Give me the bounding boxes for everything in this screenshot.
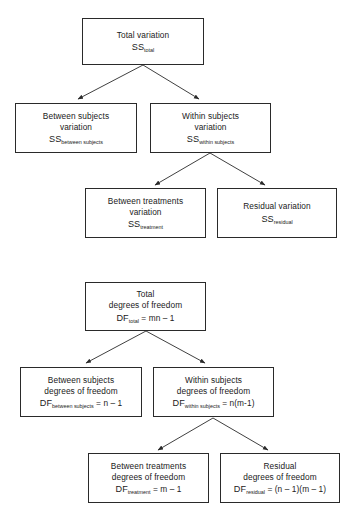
node-df-within-subjects-formula: DFwithin subjects = n(m-1) (173, 397, 255, 409)
node-ss-between-subjects-label-1: Between subjects (43, 111, 109, 122)
edge-df-total-to-between-subjects (86, 331, 146, 363)
node-df-total: Total degrees of freedom DFtotal = mn – … (85, 282, 206, 331)
node-ss-residual-formula: SSresidual (261, 213, 292, 225)
node-df-total-label-2: degrees of freedom (109, 300, 182, 311)
node-df-treatment-subscript: treatment (128, 489, 151, 495)
node-ss-between-subjects-label-2: variation (60, 122, 92, 133)
diagram-canvas: Total variation SStotal Between subjects… (0, 0, 356, 518)
node-ss-total-label: Total variation (117, 30, 169, 41)
node-df-within-subjects: Within subjects degrees of freedom DFwit… (153, 367, 274, 417)
node-df-residual-formula: DFresidual = (n – 1)(m – 1) (234, 483, 326, 495)
edge-df-within-subjects-to-treatment (158, 418, 213, 450)
node-ss-total: Total variation SStotal (82, 18, 204, 65)
edge-ss-within-subjects-to-residual (210, 153, 265, 185)
edge-ss-total-to-between-subjects (78, 65, 143, 99)
node-df-treatment-label-1: Between treatments (111, 461, 186, 472)
node-df-between-subjects: Between subjects degrees of freedom DFbe… (20, 367, 142, 417)
node-ss-within-subjects-subscript: within subjects (199, 139, 234, 145)
node-ss-within-subjects-symbol: SS (187, 134, 199, 144)
node-df-treatment-equation: = m – 1 (151, 484, 182, 494)
node-df-between-subjects-equation: = n – 1 (94, 398, 123, 408)
node-df-treatment-label-2: degrees of freedom (112, 472, 185, 483)
node-df-residual-subscript: residual (246, 489, 265, 495)
node-df-between-subjects-formula: DFbetween subjects = n – 1 (40, 397, 123, 409)
edge-df-within-subjects-to-residual (213, 418, 268, 450)
node-df-between-subjects-subscript: between subjects (52, 403, 94, 409)
node-ss-treatment-subscript: treatment (140, 224, 163, 230)
node-df-residual: Residual degrees of freedom DFresidual =… (220, 453, 340, 503)
node-df-within-subjects-label-2: degrees of freedom (177, 386, 250, 397)
node-df-total-formula: DFtotal = mn – 1 (116, 312, 174, 324)
edge-df-total-to-within-subjects (146, 331, 205, 363)
edge-ss-within-subjects-to-treatment (155, 153, 210, 185)
node-ss-treatment: Between treatments variation SStreatment (85, 188, 206, 238)
node-ss-total-formula: SStotal (132, 41, 155, 53)
node-df-total-equation: = mn – 1 (139, 313, 175, 323)
node-ss-residual-symbol: SS (261, 214, 273, 224)
node-ss-residual: Residual variation SSresidual (217, 188, 337, 238)
node-df-residual-label-1: Residual (264, 461, 297, 472)
node-ss-between-subjects: Between subjects variation SSbetween sub… (15, 103, 137, 153)
node-df-between-subjects-label-2: degrees of freedom (44, 386, 117, 397)
node-df-within-subjects-subscript: within subjects (185, 403, 220, 409)
node-df-treatment: Between treatments degrees of freedom DF… (88, 453, 209, 503)
node-ss-within-subjects-label-1: Within subjects (182, 111, 239, 122)
node-ss-between-subjects-symbol: SS (49, 134, 61, 144)
node-ss-within-subjects-formula: SSwithin subjects (187, 133, 234, 145)
node-df-total-label-1: Total (137, 289, 155, 300)
node-df-treatment-formula: DFtreatment = m – 1 (116, 483, 182, 495)
node-ss-treatment-label-2: variation (129, 207, 161, 218)
node-df-residual-symbol: DF (234, 484, 246, 494)
node-ss-between-subjects-subscript: between subjects (61, 139, 103, 145)
node-df-total-subscript: total (129, 318, 139, 324)
node-df-residual-equation: = (n – 1)(m – 1) (265, 484, 326, 494)
node-ss-total-symbol: SS (132, 42, 144, 52)
node-ss-treatment-formula: SStreatment (128, 218, 163, 230)
node-df-between-subjects-symbol: DF (40, 398, 52, 408)
node-df-total-symbol: DF (116, 313, 128, 323)
node-ss-between-subjects-formula: SSbetween subjects (49, 133, 103, 145)
edge-ss-total-to-within-subjects (143, 65, 199, 99)
node-ss-treatment-symbol: SS (128, 219, 140, 229)
node-ss-residual-subscript: residual (274, 219, 293, 225)
node-df-residual-label-2: degrees of freedom (243, 472, 316, 483)
node-df-within-subjects-label-1: Within subjects (185, 375, 242, 386)
node-df-between-subjects-label-1: Between subjects (48, 375, 114, 386)
node-ss-residual-label: Residual variation (243, 201, 310, 212)
node-ss-within-subjects: Within subjects variation SSwithin subje… (150, 103, 271, 153)
node-ss-treatment-label-1: Between treatments (108, 196, 183, 207)
node-df-within-subjects-equation: = n(m-1) (220, 398, 255, 408)
node-ss-within-subjects-label-2: variation (194, 122, 226, 133)
node-df-within-subjects-symbol: DF (173, 398, 185, 408)
connector-lines (0, 0, 356, 518)
node-df-treatment-symbol: DF (116, 484, 128, 494)
node-ss-total-subscript: total (144, 47, 154, 53)
